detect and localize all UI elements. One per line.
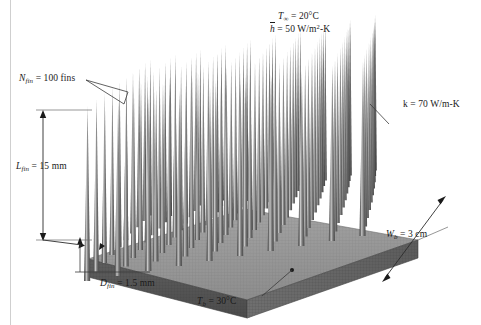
fin-count-subscript: fin <box>25 77 33 85</box>
fin-diameter-symbol: D <box>100 278 107 288</box>
fin-count-label: Nfin = 100 fins <box>19 72 75 86</box>
fin-length-subscript: fin <box>21 165 29 173</box>
ambient-temp-subscript: ∞ <box>283 15 288 23</box>
base-width-subscript: b <box>394 233 398 241</box>
h-value: = 50 W/m <box>277 24 316 34</box>
base-temperature-label: Tb = 30°C <box>197 295 236 309</box>
base-width-symbol: W <box>386 229 394 239</box>
base-temp-value: = 30°C <box>208 296 236 306</box>
base-width-value: = 3 cm <box>400 229 427 239</box>
fin-length-value: = 15 mm <box>32 161 67 171</box>
heat-sink-drawing <box>0 0 481 325</box>
ambient-temp-value: = 20°C <box>291 11 319 21</box>
thermal-conductivity-label: k = 70 W/m-K <box>403 98 460 110</box>
ambient-temperature-label: T∞ = 20°C <box>278 10 319 24</box>
fin-count-leader <box>86 80 128 104</box>
base-width-label: Wb = 3 cm <box>386 228 427 242</box>
h-unit-k: -K <box>320 24 330 34</box>
fin-diameter-label: Dfin = 1.5 mm <box>100 277 155 291</box>
fin-count-value: = 100 fins <box>36 73 76 83</box>
heat-sink-figure: T∞ = 20°C h = 50 W/m2-K Nfin = 100 fins … <box>0 0 481 325</box>
fin-diameter-value: = 1.5 mm <box>117 278 155 288</box>
fin-length-dimension <box>36 110 92 249</box>
fin-diameter-subscript: fin <box>107 282 115 290</box>
fin-length-label: Lfin = 15 mm <box>16 160 67 174</box>
base-temp-subscript: b <box>202 300 206 308</box>
h-bar-symbol: h <box>270 23 275 35</box>
convection-coefficient-label: h = 50 W/m2-K <box>270 23 330 35</box>
